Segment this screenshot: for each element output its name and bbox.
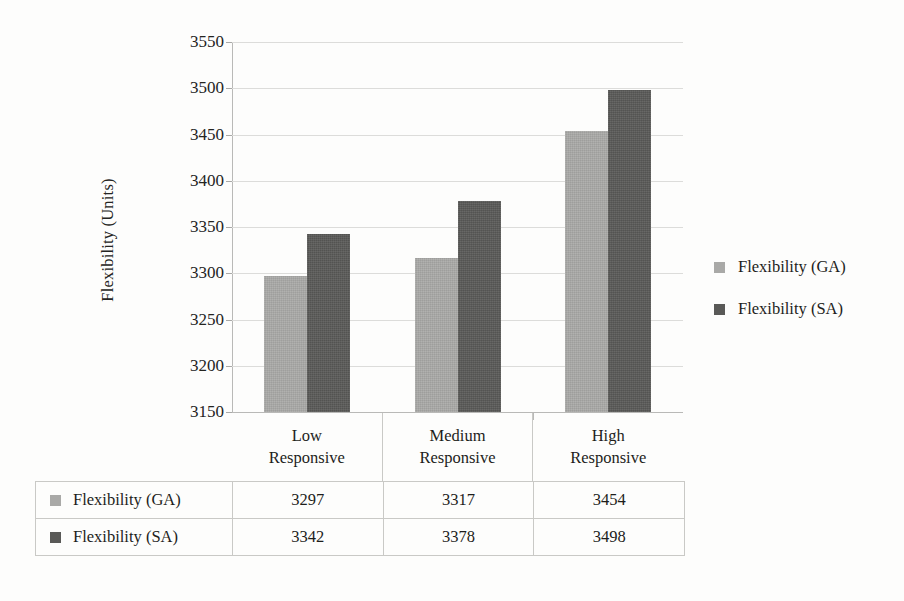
table-row: Flexibility (GA)329733173454 — [36, 481, 684, 518]
legend-item[interactable]: Flexibility (GA) — [714, 256, 846, 278]
series-color-swatch-icon — [50, 495, 61, 506]
table-cell-value: 3378 — [384, 519, 535, 555]
legend-item[interactable]: Flexibility (SA) — [714, 298, 846, 320]
bar-flexibility-ga-low — [264, 276, 307, 412]
y-axis-tick-label: 3500 — [160, 79, 224, 96]
y-axis-tick-mark — [226, 88, 232, 89]
chart-data-table: Flexibility (GA)329733173454Flexibility … — [35, 481, 685, 556]
bar-flexibility-sa-high — [608, 90, 651, 412]
y-axis-title: Flexibility (Units) — [98, 130, 118, 350]
table-row: Flexibility (SA)334233783498 — [36, 518, 684, 555]
category-label-line: Low — [292, 425, 322, 447]
gridline — [232, 88, 683, 89]
plot-area — [232, 42, 683, 412]
table-row-label-text: Flexibility (GA) — [73, 490, 181, 510]
y-axis-tick-label: 3400 — [160, 172, 224, 189]
y-axis-tick-mark — [226, 366, 232, 367]
y-axis-tick-label: 3300 — [160, 264, 224, 281]
y-axis-tick-label: 3450 — [160, 126, 224, 143]
bar-flexibility-sa-low — [307, 234, 350, 412]
y-axis-tick-mark — [226, 273, 232, 274]
category-label-line: Medium — [430, 425, 486, 447]
y-axis-tick-mark — [226, 320, 232, 321]
category-label-line: Responsive — [419, 447, 495, 469]
y-axis-tick-mark — [226, 42, 232, 43]
legend-item-label: Flexibility (GA) — [738, 257, 846, 277]
table-row-label-text: Flexibility (SA) — [73, 527, 178, 547]
table-cell-value: 3317 — [384, 482, 535, 518]
category-label-line: Responsive — [570, 447, 646, 469]
table-cell-value: 3498 — [534, 519, 684, 555]
y-axis-tick-mark — [226, 227, 232, 228]
table-row-series-label: Flexibility (GA) — [36, 482, 233, 518]
table-cell-value: 3342 — [233, 519, 384, 555]
y-axis-tick-mark — [226, 135, 232, 136]
series-color-swatch-icon — [50, 532, 61, 543]
y-axis-tick-label: 3200 — [160, 357, 224, 374]
bar-flexibility-sa-medium — [458, 201, 501, 412]
legend-item-label: Flexibility (SA) — [738, 299, 843, 319]
bar-chart-figure: Flexibility (Units) 35503500345034003350… — [0, 0, 904, 601]
y-axis-tick-label: 3350 — [160, 218, 224, 235]
category-label-high: HighResponsive — [533, 413, 683, 481]
category-label-medium: MediumResponsive — [383, 413, 534, 481]
y-axis-tick-label: 3550 — [160, 33, 224, 50]
table-cell-value: 3297 — [233, 482, 384, 518]
bar-flexibility-ga-medium — [415, 258, 458, 412]
y-axis-tick-mark — [226, 181, 232, 182]
chart-legend: Flexibility (GA)Flexibility (SA) — [714, 256, 846, 340]
legend-color-swatch-icon — [714, 262, 725, 273]
category-label-row: LowResponsiveMediumResponsiveHighRespons… — [232, 413, 683, 482]
bar-flexibility-ga-high — [565, 131, 608, 412]
table-cell-value: 3454 — [534, 482, 684, 518]
y-axis-tick-label: 3150 — [160, 403, 224, 420]
y-axis-tick-label: 3250 — [160, 311, 224, 328]
gridline — [232, 42, 683, 43]
category-label-line: High — [592, 425, 625, 447]
category-label-line: Responsive — [269, 447, 345, 469]
category-label-low: LowResponsive — [232, 413, 383, 481]
table-row-series-label: Flexibility (SA) — [36, 519, 233, 555]
legend-color-swatch-icon — [714, 304, 725, 315]
